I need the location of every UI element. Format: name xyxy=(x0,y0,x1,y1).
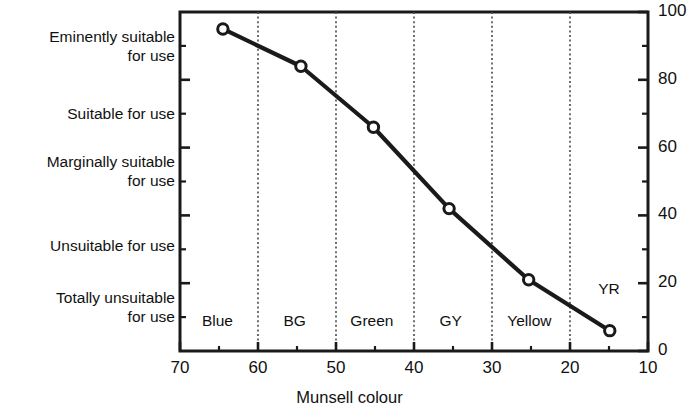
category-label-yr: YR xyxy=(598,280,620,298)
y-tick-label-20: 20 xyxy=(658,272,677,292)
data-series-line xyxy=(223,29,610,331)
y-label-totally-unsuitable: Totally unsuitable for use xyxy=(56,288,175,326)
category-label-green: Green xyxy=(350,312,393,330)
data-point xyxy=(523,275,533,285)
x-tick-label-10: 10 xyxy=(639,358,658,378)
x-tick-label-20: 20 xyxy=(561,358,580,378)
x-axis-title: Munsell colour xyxy=(0,388,699,407)
category-label-yellow: Yellow xyxy=(507,312,551,330)
data-point xyxy=(368,122,378,132)
x-tick-label-50: 50 xyxy=(327,358,346,378)
x-tick-label-70: 70 xyxy=(171,358,190,378)
x-tick-label-40: 40 xyxy=(405,358,424,378)
data-point xyxy=(218,24,228,34)
x-tick-label-30: 30 xyxy=(483,358,502,378)
y-tick-label-100: 100 xyxy=(658,1,686,21)
y-label-eminently-suitable: Eminently suitable for use xyxy=(49,27,175,65)
y-tick-label-0: 0 xyxy=(658,340,667,360)
data-point xyxy=(605,325,615,335)
data-point xyxy=(444,203,454,213)
y-label-unsuitable: Unsuitable for use xyxy=(50,236,175,255)
chart-figure: Eminently suitable for use Suitable for … xyxy=(0,0,699,420)
y-tick-label-40: 40 xyxy=(658,204,677,224)
category-label-gy: GY xyxy=(439,312,461,330)
y-label-marginally-suitable: Marginally suitable for use xyxy=(47,152,175,190)
x-tick-label-60: 60 xyxy=(249,358,268,378)
data-point-markers xyxy=(218,24,615,336)
category-label-bg: BG xyxy=(283,312,305,330)
y-tick-label-60: 60 xyxy=(658,137,677,157)
y-tick-label-80: 80 xyxy=(658,69,677,89)
data-point xyxy=(296,61,306,71)
category-label-blue: Blue xyxy=(202,312,233,330)
y-label-suitable: Suitable for use xyxy=(67,104,175,123)
